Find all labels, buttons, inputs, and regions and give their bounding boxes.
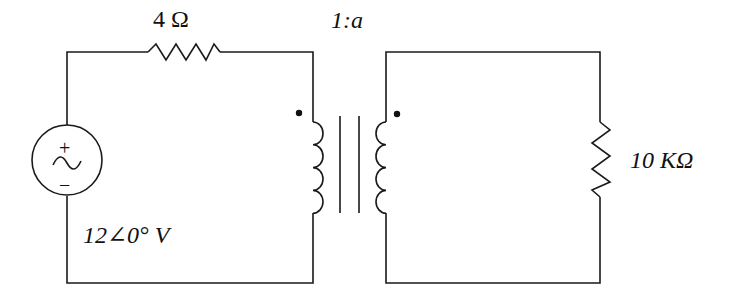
primary-coil [313, 122, 323, 213]
secondary-wires [386, 52, 600, 283]
load-resistor [592, 122, 610, 197]
ac-source: + − [32, 125, 102, 196]
source-minus-sign: − [59, 174, 70, 196]
secondary-coil [376, 122, 386, 213]
primary-wires [67, 52, 313, 283]
circuit-diagram: 4 Ω + − 12∠0° V 1:a 10 KΩ [0, 0, 745, 301]
series-resistor-label: 4 Ω [153, 6, 189, 32]
secondary-polarity-dot [394, 111, 400, 117]
series-resistor [148, 44, 220, 60]
source-label: 12∠0° V [83, 222, 172, 248]
turns-ratio-label: 1:a [331, 7, 363, 33]
load-resistor-label: 10 KΩ [630, 147, 693, 173]
source-plus-sign: + [59, 137, 70, 159]
primary-polarity-dot [296, 110, 302, 116]
transformer [296, 110, 400, 213]
